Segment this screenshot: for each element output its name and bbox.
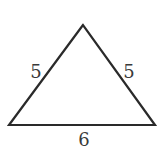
base-label: 6 xyxy=(78,129,89,150)
triangle-diagram: 5 5 6 xyxy=(0,0,166,152)
right-side-label: 5 xyxy=(123,61,134,82)
left-side-label: 5 xyxy=(30,61,41,82)
